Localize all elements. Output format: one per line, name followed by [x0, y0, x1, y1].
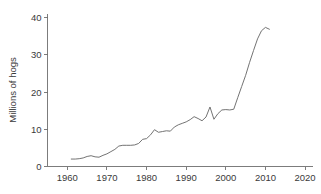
y-axis-ticks: [44, 18, 48, 167]
y-tick-label: 20: [31, 87, 42, 98]
x-tick-label: 1970: [96, 172, 117, 183]
x-axis-ticks: [67, 167, 305, 171]
line-chart: 010203040 Millions of hogs 1960197019801…: [0, 0, 321, 194]
x-tick-label: 1990: [176, 172, 197, 183]
y-tick-label: 0: [36, 161, 41, 172]
y-axis: 010203040 Millions of hogs: [7, 12, 48, 172]
x-tick-label: 1960: [57, 172, 78, 183]
y-tick-label: 10: [31, 124, 42, 135]
x-tick-label: 2000: [215, 172, 236, 183]
series-line-millions-of-hogs: [71, 27, 269, 159]
x-tick-label: 2010: [255, 172, 276, 183]
x-tick-label: 2020: [295, 172, 316, 183]
y-tick-label: 30: [31, 49, 42, 60]
x-axis-tick-labels: 1960197019801990200020102020: [57, 172, 316, 183]
y-tick-label: 40: [31, 12, 42, 23]
chart-container: 010203040 Millions of hogs 1960197019801…: [0, 0, 321, 194]
x-axis: 1960197019801990200020102020: [48, 167, 316, 183]
y-axis-tick-labels: 010203040: [31, 12, 42, 172]
x-tick-label: 1980: [136, 172, 157, 183]
data-series-group: [71, 27, 269, 159]
y-axis-title: Millions of hogs: [7, 57, 18, 123]
